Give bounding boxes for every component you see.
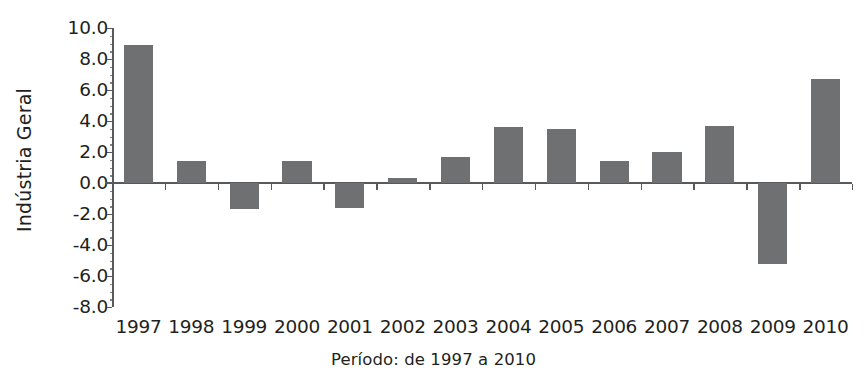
y-axis-tick-label: -4.0: [46, 236, 108, 255]
bar: [124, 45, 153, 183]
y-axis-minor-tick: [110, 44, 113, 45]
x-axis-tick-label: 2000: [274, 316, 320, 337]
x-axis-tick-mark: [693, 184, 694, 190]
bar: [811, 79, 840, 183]
y-axis-minor-tick: [110, 214, 113, 215]
chart-figure: Indústria Geral 10.08.06.04.02.00.0-2.0-…: [0, 0, 867, 386]
y-axis-tick-label: 4.0: [46, 112, 108, 131]
bar: [547, 129, 576, 183]
y-axis-minor-tick: [110, 90, 113, 91]
x-axis-tick-mark: [535, 184, 536, 190]
bar: [600, 161, 629, 183]
y-axis-minor-tick: [110, 237, 113, 238]
x-axis-tick-label: 2010: [803, 316, 849, 337]
y-axis-minor-tick: [110, 36, 113, 37]
x-axis-tick-label: 1998: [168, 316, 214, 337]
bar: [758, 183, 787, 264]
y-axis-minor-tick: [110, 292, 113, 293]
y-axis-minor-tick: [110, 245, 113, 246]
y-axis-minor-tick: [110, 51, 113, 52]
y-axis-minor-tick: [110, 299, 113, 300]
bar: [494, 127, 523, 183]
x-axis-tick-label: 2004: [485, 316, 531, 337]
bar: [705, 126, 734, 183]
y-axis-minor-tick: [110, 160, 113, 161]
y-axis-minor-tick: [110, 82, 113, 83]
y-axis-tick-label: 0.0: [46, 174, 108, 193]
bar: [230, 183, 259, 209]
y-axis-minor-tick: [110, 307, 113, 308]
y-axis-tick-label: -2.0: [46, 205, 108, 224]
y-axis-tick-label: -6.0: [46, 267, 108, 286]
y-axis-minor-tick: [110, 222, 113, 223]
y-axis-minor-tick: [110, 152, 113, 153]
x-axis-tick-mark: [799, 184, 800, 190]
bar: [652, 152, 681, 183]
y-axis-minor-tick: [110, 121, 113, 122]
y-axis-minor-tick: [110, 67, 113, 68]
x-axis-tick-mark: [429, 184, 430, 190]
x-axis-tick-label: 2007: [644, 316, 690, 337]
y-axis-title-text: Indústria Geral: [13, 88, 35, 232]
x-axis-tick-mark: [482, 184, 483, 190]
x-axis-title: Período: de 1997 a 2010: [0, 350, 867, 369]
x-axis-tick-mark: [852, 184, 853, 190]
x-axis-tick-mark: [112, 184, 113, 190]
x-axis-tick-label: 2009: [750, 316, 796, 337]
y-axis-minor-tick: [110, 268, 113, 269]
bar: [441, 157, 470, 183]
x-axis-tick-label: 2005: [538, 316, 584, 337]
y-axis-minor-tick: [110, 261, 113, 262]
x-axis-tick-label: 2001: [327, 316, 373, 337]
x-axis-tick-label: 2006: [591, 316, 637, 337]
bar: [388, 178, 417, 183]
y-axis-line: [112, 28, 114, 307]
y-axis-minor-tick: [110, 276, 113, 277]
plot-area: [112, 0, 852, 320]
y-axis-minor-tick: [110, 59, 113, 60]
y-axis-tick-label: 6.0: [46, 81, 108, 100]
x-axis-tick-labels: 1997199819992000200120022003200420052006…: [112, 316, 852, 346]
x-axis-tick-label: 1997: [115, 316, 161, 337]
y-axis-minor-tick: [110, 144, 113, 145]
bar: [335, 183, 364, 208]
x-axis-tick-mark: [376, 184, 377, 190]
y-axis-minor-tick: [110, 28, 113, 29]
y-axis-minor-tick: [110, 284, 113, 285]
y-axis-minor-tick: [110, 230, 113, 231]
x-axis-tick-mark: [165, 184, 166, 190]
y-axis-minor-tick: [110, 137, 113, 138]
x-axis-tick-mark: [323, 184, 324, 190]
y-axis-minor-tick: [110, 206, 113, 207]
x-axis-tick-label: 1999: [221, 316, 267, 337]
bar: [177, 161, 206, 183]
y-axis-minor-tick: [110, 191, 113, 192]
y-axis-minor-tick: [110, 129, 113, 130]
y-axis-tick-label: 10.0: [46, 19, 108, 38]
y-axis-tick-labels: 10.08.06.04.02.00.0-2.0-4.0-6.0-8.0: [42, 0, 108, 386]
x-axis-tick-mark: [746, 184, 747, 190]
x-axis-tick-mark: [588, 184, 589, 190]
x-axis-tick-label: 2008: [697, 316, 743, 337]
y-axis-minor-tick: [110, 98, 113, 99]
y-axis-minor-tick: [110, 253, 113, 254]
x-axis-tick-label: 2003: [433, 316, 479, 337]
x-axis-tick-label: 2002: [380, 316, 426, 337]
y-axis-minor-tick: [110, 106, 113, 107]
y-axis-tick-label: -8.0: [46, 298, 108, 317]
bar: [282, 161, 311, 183]
x-axis-tick-mark: [271, 184, 272, 190]
x-axis-tick-mark: [218, 184, 219, 190]
y-axis-tick-label: 8.0: [46, 50, 108, 69]
y-axis-minor-tick: [110, 199, 113, 200]
x-axis-tick-mark: [641, 184, 642, 190]
y-axis-minor-tick: [110, 175, 113, 176]
y-axis-minor-tick: [110, 168, 113, 169]
y-axis-tick-label: 2.0: [46, 143, 108, 162]
y-axis-minor-tick: [110, 75, 113, 76]
y-axis-title: Indústria Geral: [6, 0, 42, 320]
y-axis-minor-tick: [110, 113, 113, 114]
